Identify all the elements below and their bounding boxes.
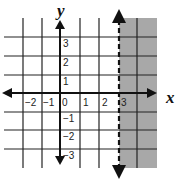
- x-axis-left-arrow-icon: [2, 88, 12, 98]
- x-tick-label: −2: [25, 97, 37, 108]
- boundary-top-arrow-icon: [112, 9, 126, 23]
- y-tick-label: −1: [63, 113, 75, 124]
- x-axis-label: x: [165, 88, 175, 107]
- x-tick-label: 1: [83, 97, 89, 108]
- y-tick-label: −3: [63, 150, 75, 161]
- boundary-bottom-arrow-icon: [112, 165, 126, 179]
- y-tick-label: 1: [63, 76, 69, 87]
- y-tick-label: 2: [63, 57, 69, 68]
- y-tick-label: 3: [63, 38, 69, 49]
- y-axis-top-arrow-icon: [55, 20, 65, 29]
- y-axis-label: y: [55, 1, 65, 20]
- x-tick-label: −1: [43, 97, 55, 108]
- x-tick-label: 2: [102, 97, 108, 108]
- x-tick-label: 3: [121, 97, 127, 108]
- inequality-graph: y x −2 −1 0 1 2 3 3 2 1 −1 −2 −3: [0, 0, 182, 181]
- y-tick-label: −2: [63, 131, 75, 142]
- x-tick-labels: −2 −1 0 1 2 3: [25, 97, 127, 108]
- x-tick-label: 0: [62, 97, 68, 108]
